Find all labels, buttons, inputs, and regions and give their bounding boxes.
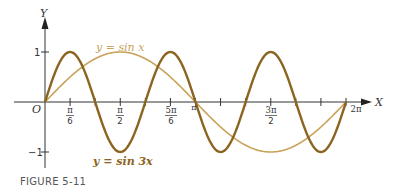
tick-5pi6-num: 5π [166,105,177,115]
tick-3pi2-den: 2 [268,116,273,126]
origin-label: O [32,103,41,116]
tick-5pi6-den: 6 [168,116,173,126]
tick-pi6-den: 6 [67,116,72,126]
x-axis-arrow-icon [361,99,372,106]
tick-pi2-den: 2 [117,116,122,126]
y-axis-label: Y [40,7,49,20]
sin-x-label: y = sin x [95,41,145,54]
y-tick-label-1: 1 [34,47,40,58]
sin-3x-label: y = sin 3x [92,155,153,168]
figure-caption: FIGURE 5-11 [20,176,86,187]
x-tick-labels: π 6 π 2 5π 6 π 3π 2 2π [66,103,362,126]
tick-pi: π [191,103,196,112]
y-tick-label-neg1: −1 [28,147,43,158]
tick-pi6-num: π [67,105,73,115]
tick-pi2-num: π [117,105,123,115]
tick-2pi: 2π [351,104,362,114]
tick-3pi2-num: 3π [266,105,277,115]
sine-graph: Y X O 1 −1 π 6 π 2 5π 6 π 3π 2 2π y = si… [0,0,403,192]
x-axis-label: X [374,96,384,109]
